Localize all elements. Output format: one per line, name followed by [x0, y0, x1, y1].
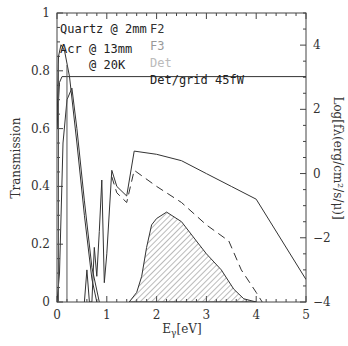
- y-tick-label: 1: [42, 6, 50, 20]
- y-right-tick-label: −2: [313, 231, 331, 245]
- series-det-area: [129, 212, 256, 302]
- x-axis-title-main: E: [162, 322, 171, 336]
- series-line: [57, 45, 97, 302]
- x-tick-label: 3: [203, 308, 211, 322]
- legend-20k: @ 20K: [89, 58, 126, 72]
- x-axis-title-unit: [eV]: [177, 322, 202, 336]
- y-axis-title: Transmission: [9, 117, 23, 198]
- legend-quartz: Quartz @ 2mm: [60, 22, 147, 36]
- x-tick-label: 1: [103, 308, 111, 322]
- x-tick-label: 5: [302, 308, 310, 322]
- y-right-tick-label: 0: [313, 167, 321, 181]
- x-axis-title: Eγ[eV]: [162, 322, 201, 338]
- y-tick-label: 0.8: [31, 64, 50, 78]
- y-right-tick-label: 4: [313, 38, 321, 52]
- y-tick-label: 0.6: [31, 122, 50, 136]
- y-right-tick-label: −4: [313, 295, 331, 309]
- y-tick-label: 0: [42, 295, 50, 309]
- y-right-tick-label: 2: [313, 102, 321, 116]
- legend-acr: Acr @ 13mm: [60, 42, 132, 56]
- chart: 01234500.20.40.60.81−4−2024 Quartz @ 2mm…: [0, 0, 348, 346]
- y-tick-label: 0.2: [31, 237, 50, 251]
- x-tick-label: 2: [153, 308, 161, 322]
- y-tick-label: 0.4: [31, 179, 50, 193]
- legend-det: Det: [150, 56, 172, 70]
- legend-det-grid: Det/grid 45fW: [150, 73, 245, 87]
- x-tick-label: 0: [53, 308, 61, 322]
- y-right-axis-title: Log[fλ(erg/cm²/s/μ)]: [331, 96, 345, 219]
- legend-f2: F2: [150, 22, 164, 36]
- x-tick-label: 4: [252, 308, 260, 322]
- legend-f3: F3: [150, 39, 164, 53]
